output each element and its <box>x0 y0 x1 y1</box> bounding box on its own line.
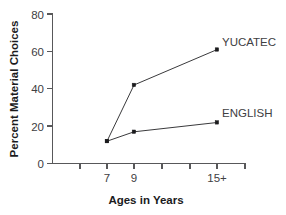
data-point-yucatec-15plus <box>215 48 218 51</box>
series-english: ENGLISH <box>105 107 272 143</box>
line-chart-canvas: 80 60 40 20 0 7 9 15+ YUCATEC ENGLISH Ag… <box>0 0 286 215</box>
y-tick-label-40: 40 <box>31 83 44 95</box>
y-axis-title: Percent Material Choices <box>8 21 20 158</box>
y-tick-label-80: 80 <box>31 9 44 21</box>
data-point-yucatec-9 <box>132 83 135 86</box>
series-label-english: ENGLISH <box>222 107 273 119</box>
series-english-line <box>107 123 217 142</box>
y-tick-label-60: 60 <box>31 46 44 58</box>
y-axis-ticks <box>47 14 53 163</box>
series-yucatec-line <box>107 50 217 142</box>
x-tick-label-9: 9 <box>131 172 137 184</box>
x-axis-ticks <box>80 164 245 170</box>
x-axis-title: Ages in Years <box>108 194 183 206</box>
chart-figure: 80 60 40 20 0 7 9 15+ YUCATEC ENGLISH Ag… <box>0 0 286 215</box>
x-tick-label-15plus: 15+ <box>207 172 227 184</box>
data-point-english-7 <box>105 139 108 142</box>
y-tick-label-0: 0 <box>38 158 44 170</box>
series-label-yucatec: YUCATEC <box>222 36 276 48</box>
series-yucatec: YUCATEC <box>105 36 276 143</box>
data-point-english-9 <box>132 130 135 133</box>
data-point-english-15plus <box>215 121 218 124</box>
y-tick-label-20: 20 <box>31 121 44 133</box>
x-tick-label-7: 7 <box>104 172 110 184</box>
